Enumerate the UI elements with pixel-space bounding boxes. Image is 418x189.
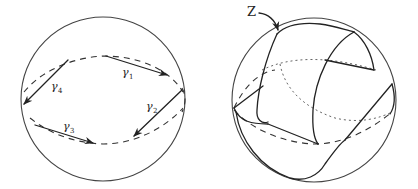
svg-text:γ: γ: [146, 100, 153, 113]
surface-top-edge: [277, 23, 354, 34]
surface-front-loop: [313, 32, 354, 144]
right-right-segment: [345, 84, 392, 140]
right-upper-dotted-arc: [262, 60, 376, 71]
surface-back-right: [354, 32, 374, 70]
right-left-dashed-arc: [234, 70, 275, 108]
gamma4-label: γ 4: [51, 80, 63, 95]
gamma2-arrow: [134, 90, 182, 136]
surface-z-label: Z: [247, 4, 278, 30]
gamma1-label: γ 1: [122, 66, 133, 81]
svg-text:γ: γ: [122, 66, 129, 79]
left-upper-dashed-arc: [24, 56, 183, 92]
surface-cross-line: [325, 60, 374, 70]
right-right-edge: [390, 84, 394, 114]
svg-text:4: 4: [58, 87, 63, 95]
left-sphere: γ 1 γ 2 γ 3 γ 4: [21, 17, 185, 181]
svg-text:1: 1: [129, 73, 133, 81]
svg-text:γ: γ: [63, 120, 70, 133]
left-sphere-outline: [21, 17, 185, 181]
surface-left-wall: [257, 34, 277, 123]
figure: γ 1 γ 2 γ 3 γ 4: [0, 0, 418, 189]
gamma4-arrow: [24, 60, 68, 104]
svg-text:3: 3: [70, 127, 74, 135]
right-sphere: Z: [232, 4, 396, 182]
gamma2-label: γ 2: [146, 100, 157, 115]
svg-text:Z: Z: [247, 4, 256, 19]
left-lower-dashed-arc: [30, 108, 183, 144]
gamma1-arrow: [106, 56, 167, 75]
gamma3-label: γ 3: [63, 120, 74, 135]
right-middle-dotted-curve: [280, 64, 392, 120]
svg-text:2: 2: [153, 107, 157, 115]
svg-text:γ: γ: [51, 80, 58, 93]
